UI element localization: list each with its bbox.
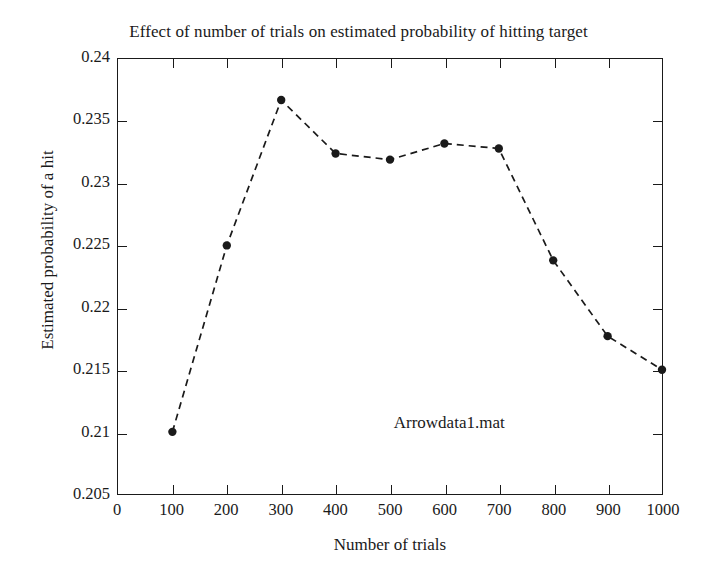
y-axis-tick-right: [653, 121, 662, 122]
data-point-marker: [223, 241, 231, 249]
y-axis-tick-right: [653, 371, 662, 372]
chart-title: Effect of number of trials on estimated …: [0, 22, 717, 42]
x-axis-tick-top: [555, 59, 556, 68]
x-tick-label: 100: [159, 500, 184, 520]
x-axis-tick: [609, 485, 610, 494]
x-axis-tick: [555, 485, 556, 494]
y-tick-label: 0.205: [0, 484, 110, 504]
dataset-annotation-label: Arrowdata1.mat: [394, 413, 505, 433]
x-axis-tick-top: [446, 59, 447, 68]
data-series-svg: [118, 59, 662, 494]
y-axis-tick-right: [653, 434, 662, 435]
x-axis-tick-top: [391, 59, 392, 68]
series-line-arrowdata1: [172, 100, 662, 432]
x-tick-label: 300: [268, 500, 293, 520]
y-axis-tick-right: [653, 246, 662, 247]
x-axis-tick: [336, 485, 337, 494]
y-axis-tick-right: [653, 309, 662, 310]
y-axis-tick: [118, 434, 127, 435]
x-axis-tick: [282, 485, 283, 494]
x-axis-tick-top: [609, 59, 610, 68]
y-axis-tick: [118, 184, 127, 185]
x-tick-label: 500: [378, 500, 403, 520]
data-point-marker: [603, 332, 611, 340]
data-point-marker: [277, 96, 285, 104]
x-axis-tick-top: [227, 59, 228, 68]
data-point-marker: [658, 366, 666, 374]
data-point-marker: [168, 428, 176, 436]
chart-figure: Effect of number of trials on estimated …: [0, 0, 717, 574]
data-point-marker: [440, 139, 448, 147]
x-axis-tick: [500, 485, 501, 494]
y-axis-tick: [118, 371, 127, 372]
series-marker-group: [168, 96, 666, 436]
plot-area: [117, 58, 663, 495]
data-point-marker: [331, 149, 339, 157]
data-point-marker: [549, 256, 557, 264]
y-axis-tick: [118, 309, 127, 310]
x-axis-tick-top: [336, 59, 337, 68]
data-point-marker: [495, 144, 503, 152]
y-axis-tick: [118, 121, 127, 122]
x-axis-tick: [227, 485, 228, 494]
x-tick-label: 1000: [647, 500, 680, 520]
x-tick-label: 700: [487, 500, 512, 520]
x-tick-label: 200: [214, 500, 239, 520]
x-axis-tick: [391, 485, 392, 494]
y-axis-title: Estimated probability of a hit: [38, 50, 58, 450]
x-axis-tick-top: [282, 59, 283, 68]
x-axis-tick: [446, 485, 447, 494]
x-axis-tick: [173, 485, 174, 494]
data-point-marker: [386, 155, 394, 163]
x-axis-tick-top: [500, 59, 501, 68]
x-tick-label-group: 01002003004005006007008009001000: [117, 500, 663, 526]
x-tick-label: 0: [113, 500, 121, 520]
x-tick-label: 600: [432, 500, 457, 520]
x-tick-label: 800: [541, 500, 566, 520]
x-axis-tick-top: [173, 59, 174, 68]
x-tick-label: 400: [323, 500, 348, 520]
y-axis-tick: [118, 246, 127, 247]
x-tick-label: 900: [596, 500, 621, 520]
y-axis-tick-right: [653, 184, 662, 185]
x-axis-title: Number of trials: [117, 535, 663, 555]
